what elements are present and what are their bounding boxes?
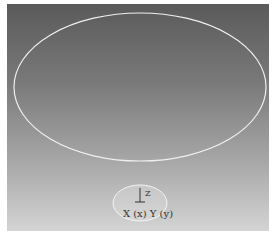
xy-axis-label: X (x) Y (y) — [120, 208, 176, 219]
3d-viewport[interactable]: Z X (x) Y (y) — [7, 4, 269, 231]
z-axis-label: Z — [145, 189, 151, 198]
axis-orientation-gizmo[interactable]: Z X (x) Y (y) — [120, 189, 176, 225]
